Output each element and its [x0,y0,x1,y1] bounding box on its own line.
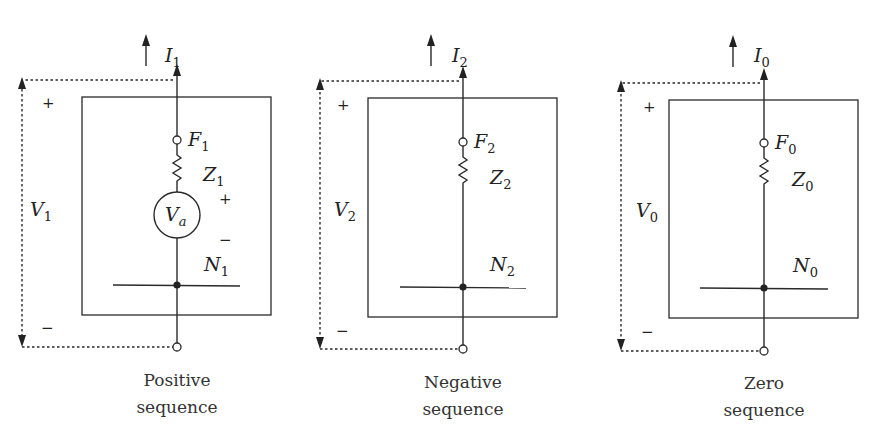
zero-sequence-network: I0 F0 Z0 N0 + − V0 Zero sequence [617,35,858,420]
current-label: I0 [753,44,770,70]
fault-node-terminal [459,138,467,146]
voltage-label: V0 [636,199,658,225]
voltage-minus-sign: − [41,319,54,337]
fault-node-terminal [760,139,768,147]
neutral-junction-dot [760,284,767,291]
caption-line-1: Zero [744,373,784,393]
voltage-arrow-up-icon [617,80,625,92]
source-minus-sign: − [219,231,232,249]
neutral-label: N0 [792,254,818,280]
neutral-label: N1 [203,253,229,279]
voltage-plus-sign: + [42,94,55,112]
fault-node-terminal [173,136,181,144]
positive-sequence-network: I1 F1 Z1 Va + − N1 + − V1 Posi [18,34,271,417]
impedance-label: Z0 [791,168,813,194]
impedance-resistor-icon [760,147,768,347]
negative-sequence-network: I2 F2 Z2 N2 + − V2 Negative sequence [316,34,557,419]
voltage-label: V2 [334,198,356,224]
reference-terminal [459,345,467,353]
caption-line-2: sequence [723,400,804,420]
fault-node-label: F0 [774,131,796,157]
voltage-minus-sign: − [336,322,349,340]
caption-line-1: Negative [424,372,502,392]
neutral-label: N2 [489,253,515,279]
current-label: I2 [451,44,468,70]
current-label: I1 [164,44,181,70]
arrowhead-icon [142,34,150,46]
fault-node-label: F1 [187,128,209,154]
voltage-plus-sign: + [337,96,350,114]
sequence-networks-diagram: I1 F1 Z1 Va + − N1 + − V1 Posi [0,0,881,442]
caption-line-1: Positive [143,370,210,390]
voltage-arrow-up-icon [316,78,324,90]
caption-line-2: sequence [136,397,217,417]
impedance-label: Z1 [202,163,224,189]
arrowhead-icon [427,34,435,46]
reference-terminal [760,347,768,355]
voltage-arrow-down-icon [18,335,26,347]
voltage-bracket-top [22,80,173,336]
voltage-arrow-up-icon [18,77,26,89]
impedance-resistor-icon [459,146,467,345]
neutral-junction-dot [459,283,466,290]
voltage-arrow-down-icon [316,337,324,349]
caption-line-2: sequence [422,399,503,419]
voltage-arrow-down-icon [617,339,625,351]
fault-node-label: F2 [473,130,495,156]
voltage-label: V1 [30,198,52,224]
reference-terminal [173,343,181,351]
arrowhead-icon [729,35,737,47]
impedance-label: Z2 [489,166,511,192]
neutral-junction-dot [173,281,180,288]
impedance-resistor-icon [173,144,181,192]
source-plus-sign: + [219,190,232,208]
voltage-minus-sign: − [641,323,654,341]
voltage-plus-sign: + [643,98,656,116]
